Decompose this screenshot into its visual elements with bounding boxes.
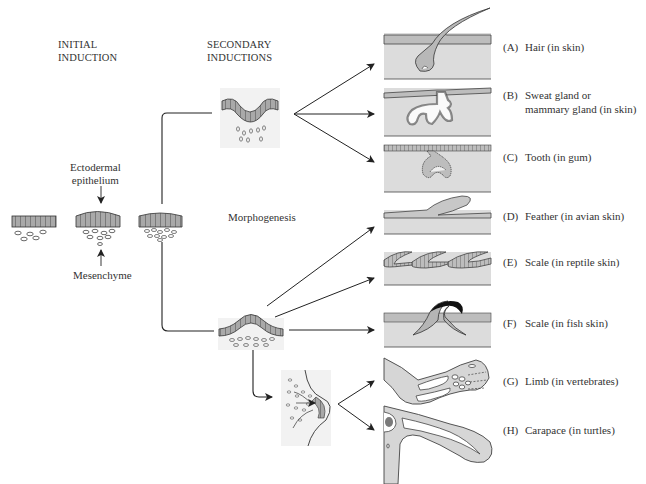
- invagination-bud: [220, 64, 374, 162]
- panel-h-carapace: [384, 406, 492, 484]
- stage-3-placode: [139, 213, 182, 242]
- stage-1-flat-epithelium: [12, 216, 56, 241]
- stage-2-thickened-epithelium: [76, 186, 120, 266]
- panel-f-fish-scale: [384, 301, 491, 347]
- panel-e-reptile-scale: [384, 247, 491, 285]
- evagination-bud: [218, 227, 374, 350]
- branch-lines: [162, 113, 272, 397]
- panel-c-tooth: [384, 145, 491, 192]
- diagram-artwork: [0, 0, 646, 484]
- limb-bud: [281, 370, 374, 446]
- panel-b-gland: [384, 88, 491, 136]
- panel-g-limb: [384, 358, 489, 404]
- panel-a-hair: [384, 8, 491, 79]
- panel-d-feather: [384, 196, 491, 234]
